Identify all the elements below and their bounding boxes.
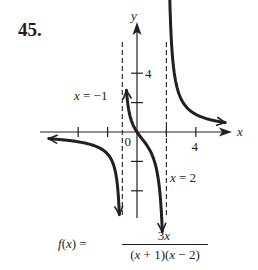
formula: f(x) = 3x (x + 1)(x − 2) [58, 228, 208, 262]
y-tick-label-4: 4 [145, 66, 152, 81]
graph-figure: 45. y x 0 4 4 x = −1 x = 2 f(x) = 3x [0, 0, 258, 270]
asymptote-label-right: x = 2 [169, 170, 196, 185]
x-axis-label: x [236, 124, 243, 139]
formula-denominator: (x + 1)(x − 2) [130, 247, 200, 262]
y-axis-label: y [129, 8, 137, 23]
problem-number: 45. [18, 19, 42, 40]
asymptote-label-left: x = −1 [73, 88, 107, 103]
x-tick-label-4: 4 [192, 139, 199, 154]
formula-lhs: f(x) = [58, 236, 87, 251]
y-axis [133, 22, 142, 218]
origin-label: 0 [125, 134, 132, 149]
curve-right-branch [169, 0, 225, 123]
curve-left-branch [49, 139, 120, 215]
formula-numerator: 3x [158, 228, 171, 243]
